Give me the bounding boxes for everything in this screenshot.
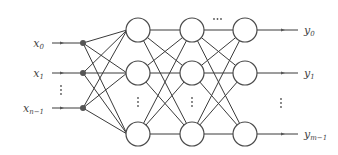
input-arrow-icon: [60, 107, 64, 110]
input-label: x1: [33, 67, 44, 81]
output-arrow-icon: [281, 72, 285, 75]
network-canvas: x0x1xn−1y0y1ym−1: [0, 0, 338, 155]
hidden-layer-2-node: [180, 18, 204, 42]
layer-gap-ellipsis: [213, 18, 215, 20]
hidden-layer-1-node: [126, 61, 150, 85]
hidden-layer-2-ellipsis: [191, 97, 193, 99]
output-ellipsis: [280, 98, 282, 100]
hidden-layer-1-ellipsis: [137, 105, 139, 107]
hidden-layer-2-ellipsis: [191, 105, 193, 107]
neural-network-diagram: x0x1xn−1y0y1ym−1: [0, 0, 338, 155]
output-arrow-icon: [281, 133, 285, 136]
input-ellipsis: [60, 89, 62, 91]
hidden-layer-2-ellipsis: [191, 101, 193, 103]
input-ellipsis: [60, 85, 62, 87]
hidden-layer-1-ellipsis: [137, 101, 139, 103]
input-arrow-icon: [60, 72, 64, 75]
hidden-layer-1-node: [126, 18, 150, 42]
input-to-hidden-edge: [83, 73, 127, 134]
output-label: ym−1: [303, 128, 327, 142]
layer-gap-ellipsis: [217, 18, 219, 20]
hidden-layer-1-ellipsis: [137, 97, 139, 99]
hidden-layer-3-node: [233, 61, 257, 85]
hidden-layer-2-node: [180, 61, 204, 85]
layer-gap-ellipsis: [220, 18, 222, 20]
input-label: x0: [33, 37, 44, 51]
output-arrow-icon: [281, 29, 285, 32]
input-node-dot: [80, 70, 86, 76]
output-label: y0: [303, 24, 315, 38]
hidden-layer-2-node: [180, 122, 204, 146]
input-to-hidden-edge: [83, 43, 127, 134]
input-label: xn−1: [23, 102, 44, 116]
output-label: y1: [303, 67, 315, 81]
output-ellipsis: [280, 106, 282, 108]
hidden-layer-3-node: [233, 122, 257, 146]
hidden-layer-1-node: [126, 122, 150, 146]
input-arrow-icon: [60, 42, 64, 45]
input-node-dot: [80, 105, 86, 111]
output-ellipsis: [280, 102, 282, 104]
input-node-dot: [80, 40, 86, 46]
input-ellipsis: [60, 93, 62, 95]
hidden-layer-3-node: [233, 18, 257, 42]
connections: [52, 30, 298, 134]
